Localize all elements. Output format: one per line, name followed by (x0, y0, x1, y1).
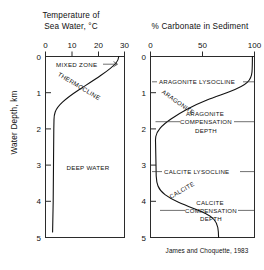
annotation-aragonite-lysocline-text: ARAGONITE LYSOCLINE (159, 78, 235, 85)
x-axis-ticks-left (46, 52, 125, 57)
temperature-curve (53, 57, 119, 233)
svg-text:50: 50 (198, 41, 207, 50)
svg-text:30: 30 (120, 41, 129, 50)
annotation-aragonite-compensation-depth: ARAGONITE COMPENSATION DEPTH (156, 110, 255, 134)
carbonate-plot-svg: 0 50 100 0 1 2 3 4 5 (130, 0, 264, 270)
svg-text:1: 1 (37, 89, 42, 98)
svg-text:0: 0 (142, 53, 147, 62)
annotation-calcite-compensation-depth: CALCITE COMPENSATION DEPTH (160, 199, 254, 222)
annotation-ccd-line2: COMPENSATION (185, 207, 237, 214)
svg-text:3: 3 (142, 161, 147, 170)
annotation-mixed-zone-text: MIXED ZONE (56, 61, 98, 68)
annotation-acd-line2: COMPENSATION (180, 118, 232, 125)
annotation-calcite-lysocline: CALCITE LYSOCLINE (152, 168, 254, 175)
svg-text:4: 4 (142, 197, 147, 206)
plot-frame-left (46, 57, 125, 238)
temperature-plot-svg: 0 10 20 30 0 1 2 3 4 5 (0, 0, 134, 270)
annotation-mixed-zone: MIXED ZONE (56, 61, 118, 68)
annotation-calcite-lysocline-text: CALCITE LYSOCLINE (164, 168, 229, 175)
x-axis-ticklabels-left: 0 10 20 30 (43, 41, 129, 50)
svg-text:0: 0 (37, 53, 42, 62)
svg-text:4: 4 (37, 197, 42, 206)
annotation-calcite: CALCITE (168, 180, 195, 200)
svg-text:1: 1 (142, 89, 147, 98)
svg-text:0: 0 (43, 41, 48, 50)
annotation-deep-water: DEEP WATER (66, 164, 109, 171)
annotation-acd-line1: ARAGONITE (186, 110, 224, 117)
svg-text:2: 2 (142, 125, 147, 134)
svg-text:20: 20 (94, 41, 103, 50)
y-axis-ticklabels-right: 0 1 2 3 4 5 (142, 53, 147, 243)
annotation-ccd-line3: DEPTH (200, 215, 222, 222)
y-axis-ticklabels-left: 0 1 2 3 4 5 (37, 53, 42, 243)
svg-text:3: 3 (37, 161, 42, 170)
svg-text:5: 5 (37, 234, 42, 243)
figure-credit: James and Choquette, 1983 (150, 247, 264, 254)
y-axis-ticks-left (46, 57, 52, 238)
x-axis-ticks-right (151, 52, 255, 57)
panel-temperature: Temperature of Sea Water, °C Water Depth… (0, 0, 134, 270)
svg-text:10: 10 (68, 41, 77, 50)
annotation-acd-line3: DEPTH (195, 127, 217, 134)
annotation-aragonite-lysocline: ARAGONITE LYSOCLINE (152, 78, 254, 85)
annotation-thermocline: THERMOCLINE (57, 70, 102, 101)
svg-text:5: 5 (142, 234, 147, 243)
figure-container: Temperature of Sea Water, °C Water Depth… (0, 0, 264, 270)
x-axis-ticklabels-right: 0 50 100 (148, 41, 261, 50)
panel-carbonate: % Carbonate in Sediment 0 50 100 (130, 0, 264, 270)
annotation-ccd-line1: CALCITE (196, 199, 224, 206)
svg-text:2: 2 (37, 125, 42, 134)
svg-text:0: 0 (148, 41, 153, 50)
svg-text:100: 100 (248, 41, 262, 50)
